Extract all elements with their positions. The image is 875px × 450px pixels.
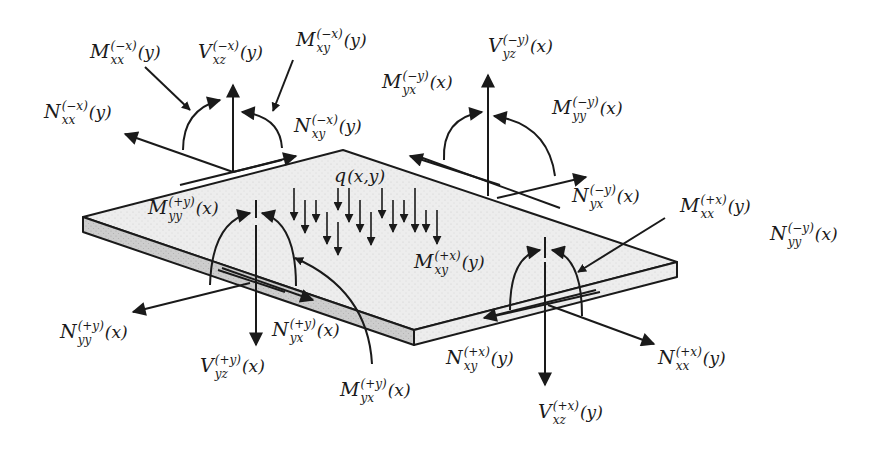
plate-diagram: [0, 0, 875, 450]
label-Nxx-pos-x: N(+x)xx(y): [658, 346, 726, 372]
label-Nyx-neg-y: N(−y)yx(x): [572, 184, 640, 210]
Mxy-neg-x-pointer: [273, 60, 293, 111]
Myx-neg-y-arc: [444, 112, 482, 160]
label-Nxx-neg-x: N(−x)xx(y): [44, 100, 112, 126]
label-Vxz-pos-x: V(+x)xz(y): [538, 400, 603, 426]
Nxx-neg-x-arrow: [125, 134, 233, 172]
label-Myx-neg-y: M(−y)yx(x): [382, 70, 453, 96]
label-Vxz-neg-x: V(−x)xz(y): [198, 40, 263, 66]
label-Myy-neg-y: M(−y)yy(x): [552, 96, 623, 122]
label-Myx-pos-y: M(+y)yx(x): [340, 378, 411, 404]
label-Nyy-neg-y: N(−y)yy(x): [770, 222, 838, 248]
label-Mxx-pos-x: M(+x)xx(y): [680, 194, 751, 220]
label-Mxy-neg-x: M(−x)xy(y): [296, 28, 367, 54]
label-load-q: q(x,y): [334, 166, 385, 185]
neg-x-edge-resultants: [125, 60, 296, 185]
Mxy-neg-x-arc: [242, 112, 282, 148]
label-Myy-pos-y: M(+y)yy(x): [148, 196, 219, 222]
label-Mxx-neg-x: M(−x)xx(y): [90, 40, 161, 66]
label-Nyx-pos-y: N(+y)yx(x): [272, 318, 340, 344]
label-Mxy-pos-x: M(+x)xy(y): [414, 250, 485, 276]
label-Nyy-pos-y: N(+y)yy(x): [60, 320, 128, 346]
label-Vyz-pos-y: V(+y)yz(x): [200, 354, 265, 380]
Nyy-pos-y-arrow: [133, 283, 250, 312]
label-Nxy-neg-x: N(−x)xy(y): [294, 114, 362, 140]
label-Nxy-pos-x: N(+x)xy(y): [446, 346, 514, 372]
label-Vyz-neg-y: V(−y)yz(x): [488, 34, 553, 60]
Mxx-neg-x-pointer: [145, 67, 190, 110]
Nxx-pos-x-arrow: [548, 305, 654, 344]
Myy-neg-y-arc: [494, 116, 555, 176]
